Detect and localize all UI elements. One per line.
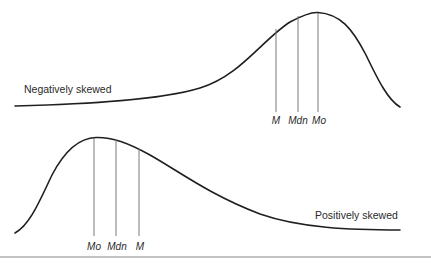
negative-median-label: Mdn bbox=[288, 115, 308, 126]
skewness-diagram: Negatively skewed M Mdn Mo Positively sk… bbox=[0, 0, 431, 263]
negative-skew-label: Negatively skewed bbox=[24, 83, 112, 95]
positive-mean-label: M bbox=[136, 241, 145, 252]
positive-skew-label: Positively skewed bbox=[315, 209, 398, 221]
positive-median-label: Mdn bbox=[107, 241, 127, 252]
negative-mode-label: Mo bbox=[312, 115, 326, 126]
negative-mean-label: M bbox=[272, 115, 281, 126]
positive-mode-label: Mo bbox=[87, 241, 101, 252]
positively-skewed-distribution: Positively skewed Mo Mdn M bbox=[15, 137, 400, 252]
negatively-skewed-distribution: Negatively skewed M Mdn Mo bbox=[15, 12, 400, 126]
